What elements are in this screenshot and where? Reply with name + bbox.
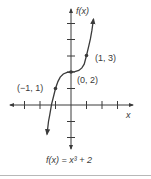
x-axis-label: x bbox=[126, 111, 131, 120]
divider-rule bbox=[0, 175, 151, 176]
y-axis-label: f(x) bbox=[76, 7, 89, 16]
point-label-0-2: (0, 2) bbox=[77, 76, 98, 85]
point-neg1-1 bbox=[54, 87, 58, 91]
point-label-neg1-1: (−1, 1) bbox=[17, 84, 43, 93]
point-1-3 bbox=[85, 54, 89, 58]
point-label-1-3: (1, 3) bbox=[95, 54, 116, 63]
function-caption: f(x) = x³ + 2 bbox=[46, 156, 92, 165]
point-0-2 bbox=[69, 70, 73, 74]
